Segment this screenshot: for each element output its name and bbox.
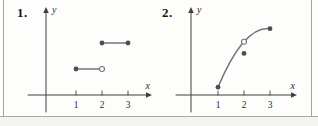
graph1-x-axis-label: x xyxy=(145,80,151,91)
open-endpoint-dot xyxy=(100,67,105,72)
graph2-curve xyxy=(218,29,270,88)
closed-endpoint-dot xyxy=(268,26,273,31)
graph2-y-axis-label: y xyxy=(196,4,202,15)
graphs-canvas: xy123xy123 xyxy=(0,0,318,126)
closed-endpoint-dot xyxy=(242,51,247,56)
graph1-y-axis-arrow-icon xyxy=(43,7,49,13)
graph1-y-axis-label: y xyxy=(51,4,57,15)
textbook-figure-panel: 1. 2. xy123xy123 xyxy=(0,0,318,126)
closed-endpoint-dot xyxy=(216,85,221,90)
graph1-tick-label: 1 xyxy=(74,100,79,110)
graph1-tick-label: 2 xyxy=(100,100,105,110)
closed-endpoint-dot xyxy=(126,41,131,46)
graph2-tick-label: 1 xyxy=(216,100,221,110)
graph1-tick-label: 3 xyxy=(126,100,131,110)
graph2-tick-label: 2 xyxy=(242,100,247,110)
graph1-x-axis-arrow-icon xyxy=(146,92,152,98)
closed-endpoint-dot xyxy=(100,41,105,46)
graph2-x-axis-label: x xyxy=(290,80,296,91)
open-endpoint-dot xyxy=(242,39,247,44)
graph2-y-axis-arrow-icon xyxy=(188,7,194,13)
graph2-x-axis-arrow-icon xyxy=(291,92,297,98)
graph2-tick-label: 3 xyxy=(268,100,273,110)
closed-endpoint-dot xyxy=(74,67,79,72)
